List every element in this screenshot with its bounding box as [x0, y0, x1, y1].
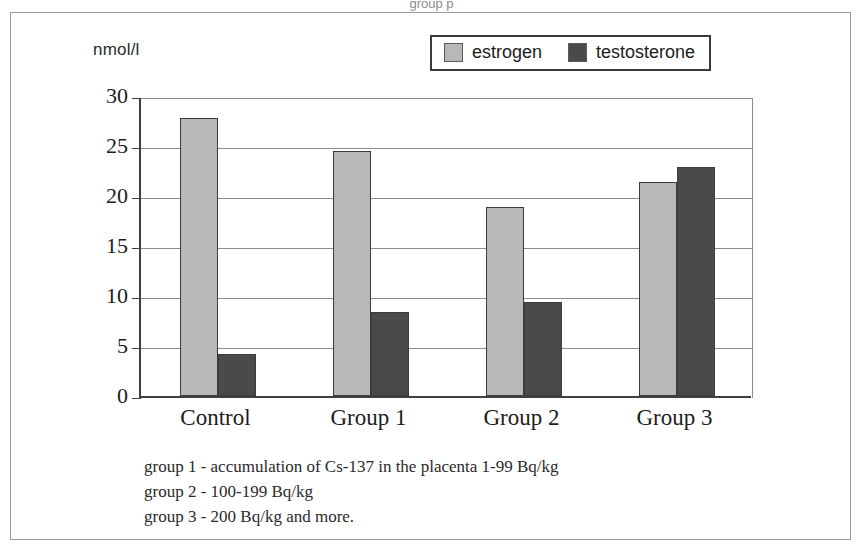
legend-item-estrogen: estrogen [444, 42, 542, 63]
y-axis-tick [132, 398, 141, 399]
footnote-line-3: group 3 - 200 Bq/kg and more. [144, 504, 559, 529]
y-axis-unit-label: nmol/l [93, 40, 140, 60]
y-axis-tick-label: 0 [88, 383, 128, 409]
y-axis-tick-label: 5 [88, 333, 128, 359]
y-axis-tick-label: 25 [88, 133, 128, 159]
bar-estrogen-control [180, 118, 218, 396]
footnote-line-1: group 1 - accumulation of Cs-137 in the … [144, 454, 559, 479]
footnote-line-2: group 2 - 100-199 Bq/kg [144, 479, 559, 504]
y-axis-tick [132, 98, 141, 99]
x-axis-tick-labels: ControlGroup 1Group 2Group 3 [139, 405, 751, 435]
x-axis-tick-label: Group 3 [598, 405, 751, 431]
chart-footnotes: group 1 - accumulation of Cs-137 in the … [144, 454, 559, 529]
y-axis-tick [132, 198, 141, 199]
y-axis-tick [132, 148, 141, 149]
bar-testosterone-group-3 [677, 167, 715, 396]
chart-legend: estrogen testosterone [430, 35, 711, 71]
bar-estrogen-group-3 [639, 182, 677, 396]
plot-frame-top [141, 98, 753, 99]
top-cut-caption: group p [0, 0, 863, 11]
bar-estrogen-group-2 [486, 207, 524, 396]
y-axis-tick-label: 15 [88, 233, 128, 259]
legend-label-estrogen: estrogen [472, 42, 542, 63]
plot-area [139, 98, 751, 398]
bar-testosterone-group-2 [524, 302, 562, 396]
y-axis-tick [132, 248, 141, 249]
y-axis-tick [132, 298, 141, 299]
y-axis-tick-labels: 051015202530 [82, 98, 128, 398]
y-axis-tick-label: 20 [88, 183, 128, 209]
bar-estrogen-group-1 [333, 151, 371, 396]
y-axis-tick-label: 30 [88, 83, 128, 109]
x-axis-tick-label: Group 2 [445, 405, 598, 431]
legend-label-testosterone: testosterone [596, 42, 695, 63]
legend-item-testosterone: testosterone [568, 42, 695, 63]
y-axis-tick [132, 348, 141, 349]
x-axis-tick-label: Group 1 [292, 405, 445, 431]
bar-testosterone-group-1 [371, 312, 409, 396]
x-axis-tick-label: Control [139, 405, 292, 431]
legend-swatch-testosterone [568, 43, 587, 62]
legend-swatch-estrogen [444, 43, 463, 62]
chart-figure-frame: nmol/l estrogen testosterone 05101520253… [10, 12, 851, 540]
y-axis-tick-label: 10 [88, 283, 128, 309]
gridline [141, 148, 753, 149]
bar-testosterone-control [218, 354, 256, 396]
